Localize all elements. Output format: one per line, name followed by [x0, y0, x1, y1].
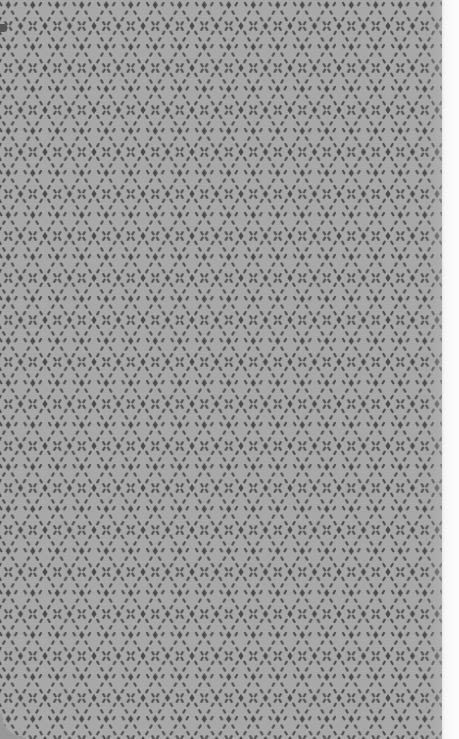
edge-mark: [0, 24, 7, 32]
corner-shadow: [0, 713, 26, 739]
diamond-lattice-pattern: [0, 0, 442, 739]
right-edge-strip: [442, 0, 459, 739]
fabric-texture: [0, 0, 442, 739]
image-frame: [0, 0, 459, 739]
